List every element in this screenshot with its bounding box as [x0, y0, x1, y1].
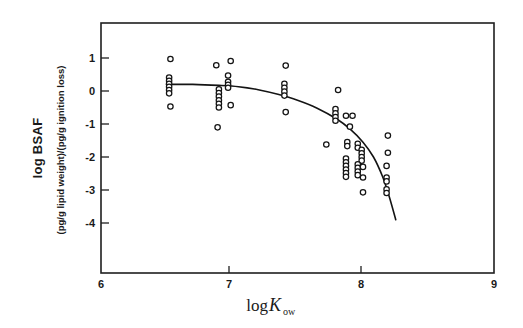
data-point: [215, 125, 220, 130]
data-point: [355, 172, 360, 177]
data-point: [384, 179, 389, 184]
data-point: [385, 150, 390, 155]
y-tick-label-neg1: -1: [85, 118, 95, 130]
data-point: [225, 85, 230, 90]
data-point: [384, 190, 389, 195]
data-point: [343, 113, 348, 118]
data-point: [166, 91, 171, 96]
x-tick-label-6: 6: [98, 278, 104, 290]
y-axis-label-secondary: (pg/g lipid weight)/(pg/g ignition loss): [55, 66, 66, 235]
y-axis-label-main: log BSAF: [30, 118, 45, 179]
data-point: [347, 124, 352, 129]
data-point: [333, 118, 338, 123]
y-tick-label-neg2: -2: [85, 151, 95, 163]
data-point: [228, 58, 233, 63]
data-point: [225, 73, 230, 78]
y-tick-label-0: 0: [89, 85, 95, 97]
data-point: [168, 104, 173, 109]
data-point: [360, 190, 365, 195]
plot-background: [0, 0, 523, 328]
data-point: [168, 56, 173, 61]
data-point: [343, 174, 348, 179]
y-tick-label-1: 1: [89, 52, 95, 64]
data-point: [283, 109, 288, 114]
data-point: [228, 102, 233, 107]
data-point: [384, 163, 389, 168]
x-tick-label-7: 7: [226, 278, 232, 290]
data-point: [335, 87, 340, 92]
y-tick-label-neg4: -4: [85, 217, 96, 229]
scatter-plot: 1 0 -1 -2 -3 -4 6 7 8 9 log BSAF (pg/g l…: [0, 0, 523, 328]
x-tick-label-9: 9: [491, 278, 497, 290]
data-point: [385, 133, 390, 138]
data-point: [282, 93, 287, 98]
x-axis-label-subscript: ow: [283, 306, 296, 317]
x-tick-label-8: 8: [358, 278, 364, 290]
data-point: [360, 175, 365, 180]
x-axis-label-prefix: log: [246, 296, 268, 315]
data-point: [283, 63, 288, 68]
y-tick-label-neg3: -3: [85, 184, 95, 196]
figure-container: 1 0 -1 -2 -3 -4 6 7 8 9 log BSAF (pg/g l…: [0, 0, 523, 328]
data-point: [216, 105, 221, 110]
x-axis-label-symbol: K: [268, 295, 282, 315]
data-point: [350, 113, 355, 118]
data-point: [324, 142, 329, 147]
data-point: [345, 143, 350, 148]
data-point: [214, 63, 219, 68]
data-point: [360, 164, 365, 169]
